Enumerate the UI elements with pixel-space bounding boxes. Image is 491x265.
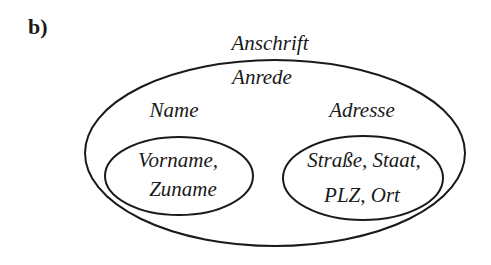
adresse-contents-line1: Straße, Staat, (307, 147, 421, 173)
group-label-adresse: Adresse (329, 97, 395, 123)
adresse-contents-line2: PLZ, Ort (324, 182, 400, 208)
name-contents-line1: Vorname, (138, 147, 218, 173)
name-contents-line2: Zuname (149, 176, 217, 202)
group-label-name: Name (150, 97, 199, 123)
outer-inside-label-anrede: Anrede (232, 64, 292, 90)
outer-title-anschrift: Anschrift (232, 30, 309, 56)
